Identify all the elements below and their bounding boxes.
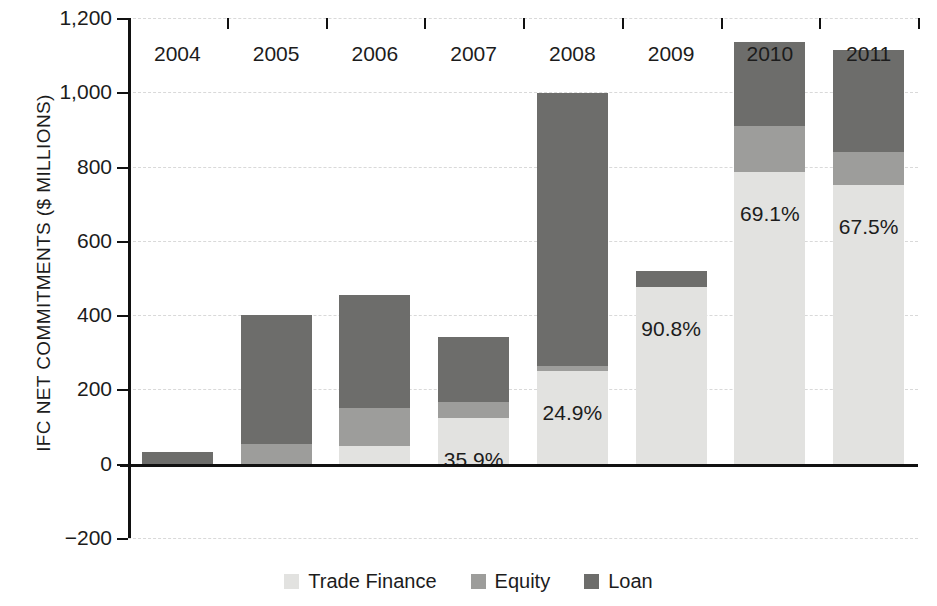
- bar-segment-equity[interactable]: [734, 126, 805, 172]
- bar-stack: [339, 295, 410, 464]
- y-tick-mark: [117, 315, 128, 317]
- bar-percentage-label: 67.5%: [810, 215, 927, 239]
- legend-label: Loan: [608, 570, 653, 593]
- legend-label: Trade Finance: [308, 570, 436, 593]
- legend-item[interactable]: Trade Finance: [284, 570, 436, 593]
- y-tick-label: 600: [77, 229, 112, 253]
- bar-stack: [142, 452, 213, 464]
- y-tick-mark: [117, 167, 128, 169]
- y-tick-mark: [117, 389, 128, 391]
- x-tick-mark: [622, 18, 624, 29]
- x-tick-mark: [523, 18, 525, 29]
- bar-segment-loan[interactable]: [241, 315, 312, 444]
- y-tick-label: −200: [65, 526, 112, 550]
- bar-segment-loan[interactable]: [537, 93, 608, 366]
- gridline: [128, 538, 918, 539]
- y-tick-label: 800: [77, 155, 112, 179]
- legend-swatch-icon: [284, 574, 299, 589]
- y-tick-mark: [117, 92, 128, 94]
- y-axis-spine: [128, 18, 131, 538]
- y-tick-mark: [117, 18, 128, 20]
- bar-percentage-label: 35.9%: [415, 448, 532, 472]
- bar-stack: [636, 271, 707, 464]
- legend-label: Equity: [495, 570, 551, 593]
- chart-legend: Trade FinanceEquityLoan: [0, 570, 937, 593]
- y-tick-label: 400: [77, 303, 112, 327]
- y-tick-label: 1,000: [59, 80, 112, 104]
- x-tick-mark: [819, 18, 821, 29]
- bar-percentage-label: 24.9%: [514, 401, 631, 425]
- bar-segment-trade-finance[interactable]: [636, 287, 707, 463]
- legend-item[interactable]: Loan: [584, 570, 653, 593]
- legend-swatch-icon: [584, 574, 599, 589]
- bar-segment-loan[interactable]: [438, 337, 509, 402]
- bar-percentage-label: 90.8%: [613, 317, 730, 341]
- y-tick-label: 1,200: [59, 6, 112, 30]
- x-tick-mark: [721, 18, 723, 29]
- bar-segment-equity[interactable]: [537, 366, 608, 370]
- bar-segment-loan[interactable]: [636, 271, 707, 288]
- bar-segment-loan[interactable]: [339, 295, 410, 408]
- y-tick-label: 0: [100, 452, 112, 476]
- bar-segment-equity[interactable]: [438, 402, 509, 418]
- bar-segment-loan[interactable]: [142, 452, 213, 464]
- bar-stack: [438, 337, 509, 463]
- y-tick-mark: [117, 241, 128, 243]
- x-tick-mark: [424, 18, 426, 29]
- y-axis-title: IFC NET COMMITMENTS ($ MILLIONS): [33, 13, 55, 533]
- stacked-bar-chart: IFC NET COMMITMENTS ($ MILLIONS) 1,2001,…: [0, 0, 937, 606]
- x-tick-mark: [326, 18, 328, 29]
- bar-stack: [241, 315, 312, 464]
- x-tick-mark: [128, 18, 130, 29]
- bar-segment-equity[interactable]: [339, 408, 410, 446]
- x-axis-label: 2011: [809, 42, 929, 66]
- x-tick-mark: [918, 18, 920, 29]
- legend-item[interactable]: Equity: [471, 570, 551, 593]
- bar-segment-equity[interactable]: [833, 152, 904, 185]
- x-tick-mark: [227, 18, 229, 29]
- bar-stack: [734, 42, 805, 464]
- plot-area: 1,2001,0008006004002000−200 35.9%24.9%90…: [128, 18, 918, 538]
- x-axis-line: [120, 464, 918, 467]
- bar-segment-equity[interactable]: [241, 444, 312, 463]
- y-tick-mark: [117, 538, 128, 540]
- bar-stack: [833, 50, 904, 464]
- bar-segment-trade-finance[interactable]: [339, 446, 410, 464]
- y-tick-label: 200: [77, 377, 112, 401]
- legend-swatch-icon: [471, 574, 486, 589]
